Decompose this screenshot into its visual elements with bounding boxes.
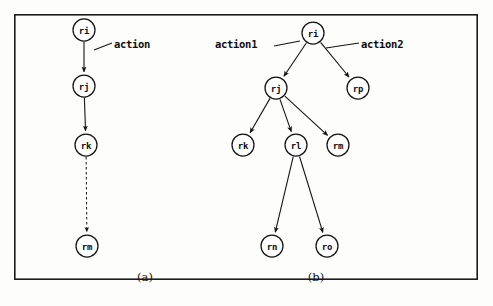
node-label-rl: rl	[291, 141, 301, 151]
node-ro[interactable]: ro	[316, 235, 338, 257]
node-label-ri: ri	[79, 26, 90, 36]
node-label-rm: rm	[82, 242, 93, 252]
action-label-a-action: action	[114, 38, 150, 50]
node-rn[interactable]: rn	[261, 235, 283, 257]
node-rl[interactable]: rl	[285, 134, 307, 156]
tree-diagram: rirjrkrmrirjrprkrlrmrnro actionaction1ac…	[0, 0, 493, 306]
caption-panel-a: (a)	[137, 270, 153, 284]
node-rm[interactable]: rm	[327, 134, 349, 156]
node-ri[interactable]: ri	[73, 19, 95, 41]
node-rk[interactable]: rk	[75, 134, 97, 156]
node-label-rk: rk	[238, 141, 249, 151]
node-label-rm: rm	[333, 141, 344, 151]
node-label-ro: ro	[322, 242, 332, 252]
action-label-b-action1: action1	[215, 38, 257, 50]
node-rm[interactable]: rm	[76, 235, 98, 257]
node-rj[interactable]: rj	[73, 75, 95, 97]
node-label-rn: rn	[267, 242, 277, 252]
caption-panel-b: (b)	[308, 270, 324, 284]
figure-canvas: rirjrkrmrirjrprkrlrmrnro actionaction1ac…	[0, 0, 493, 306]
node-rk[interactable]: rk	[232, 134, 254, 156]
node-label-rj: rj	[271, 84, 281, 94]
node-label-rk: rk	[81, 141, 92, 151]
node-ri[interactable]: ri	[302, 22, 324, 44]
node-label-rp: rp	[353, 84, 364, 94]
action-label-b-action2: action2	[361, 38, 403, 50]
node-rj[interactable]: rj	[265, 77, 287, 99]
node-label-rj: rj	[79, 82, 89, 92]
node-rp[interactable]: rp	[347, 77, 369, 99]
node-label-ri: ri	[308, 29, 319, 39]
